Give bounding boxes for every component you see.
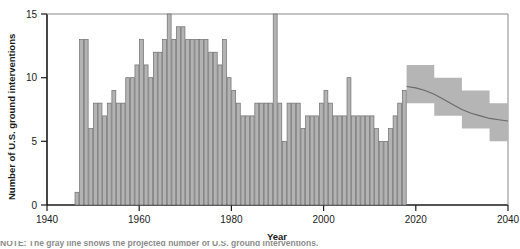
bar-1961 bbox=[144, 65, 148, 205]
bar-1999 bbox=[319, 103, 323, 205]
bar-1953 bbox=[107, 103, 111, 205]
bar-2011 bbox=[375, 129, 379, 205]
bar-1990 bbox=[278, 103, 282, 205]
bar-1947 bbox=[80, 39, 84, 205]
bar-1967 bbox=[172, 39, 176, 205]
bar-1994 bbox=[296, 103, 300, 205]
bar-1971 bbox=[190, 39, 194, 205]
bar-2001 bbox=[329, 103, 333, 205]
y-tick-10: 10 bbox=[26, 72, 38, 83]
y-tick-0: 0 bbox=[31, 200, 37, 211]
x-tick-1960: 1960 bbox=[128, 214, 151, 225]
x-tick-2040: 2040 bbox=[497, 214, 520, 225]
bar-1958 bbox=[130, 78, 134, 205]
y-tick-5: 5 bbox=[31, 136, 37, 147]
bar-2010 bbox=[370, 116, 374, 205]
bar-1989 bbox=[273, 14, 277, 205]
figure-container: Number of U.S. ground interventions 0 5 … bbox=[0, 0, 520, 249]
bar-2017 bbox=[402, 90, 406, 205]
bar-1976 bbox=[213, 52, 217, 205]
bar-1980 bbox=[232, 90, 236, 205]
caption-text: NOTE: The gray line shows the projected … bbox=[0, 241, 520, 247]
bar-1984 bbox=[250, 116, 254, 205]
bar-2013 bbox=[384, 141, 388, 205]
bar-1987 bbox=[264, 103, 268, 205]
bar-1956 bbox=[121, 103, 125, 205]
bar-1981 bbox=[236, 103, 240, 205]
bar-1978 bbox=[223, 39, 227, 205]
x-tick-2020: 2020 bbox=[405, 214, 428, 225]
bar-1977 bbox=[218, 65, 222, 205]
bar-1959 bbox=[135, 65, 139, 205]
bar-2016 bbox=[398, 103, 402, 205]
bar-2002 bbox=[333, 116, 337, 205]
bar-1960 bbox=[140, 39, 144, 205]
bar-1966 bbox=[167, 14, 171, 205]
bar-1992 bbox=[287, 103, 291, 205]
bar-1962 bbox=[149, 78, 153, 205]
bar-1946 bbox=[75, 192, 79, 205]
bar-1951 bbox=[98, 103, 102, 205]
bar-2004 bbox=[342, 116, 346, 205]
bar-1949 bbox=[89, 129, 93, 205]
bar-1982 bbox=[241, 116, 245, 205]
bar-1950 bbox=[93, 103, 97, 205]
x-tick-1940: 1940 bbox=[36, 214, 59, 225]
x-tick-1980: 1980 bbox=[220, 214, 243, 225]
bar-2009 bbox=[365, 116, 369, 205]
bar-1973 bbox=[199, 39, 203, 205]
bar-2007 bbox=[356, 116, 360, 205]
projection-band bbox=[407, 65, 508, 141]
bar-1991 bbox=[282, 141, 286, 205]
bar-2006 bbox=[352, 116, 356, 205]
bar-1979 bbox=[227, 78, 231, 205]
bar-1985 bbox=[255, 103, 259, 205]
x-axis-ticks: 1940 1960 1980 2000 2020 2040 bbox=[36, 205, 520, 225]
bar-2000 bbox=[324, 90, 328, 205]
bar-1986 bbox=[259, 103, 263, 205]
bar-1995 bbox=[301, 129, 305, 205]
bar-series bbox=[75, 14, 406, 205]
ground-interventions-chart: Number of U.S. ground interventions 0 5 … bbox=[0, 0, 520, 249]
bar-1972 bbox=[195, 39, 199, 205]
bar-1993 bbox=[292, 103, 296, 205]
bar-1996 bbox=[306, 116, 310, 205]
bar-1969 bbox=[181, 27, 185, 205]
bar-1964 bbox=[158, 52, 162, 205]
bar-2008 bbox=[361, 116, 365, 205]
bar-1975 bbox=[209, 52, 213, 205]
y-axis-title: Number of U.S. ground interventions bbox=[6, 34, 17, 200]
bar-2014 bbox=[388, 129, 392, 205]
bar-1954 bbox=[112, 90, 116, 205]
bar-1997 bbox=[310, 116, 314, 205]
bar-2015 bbox=[393, 116, 397, 205]
bar-2003 bbox=[338, 116, 342, 205]
bar-1998 bbox=[315, 116, 319, 205]
bar-1965 bbox=[163, 39, 167, 205]
y-tick-15: 15 bbox=[26, 9, 38, 20]
bar-1955 bbox=[117, 103, 121, 205]
figure-caption: NOTE: The gray line shows the projected … bbox=[0, 241, 520, 249]
x-tick-2000: 2000 bbox=[312, 214, 335, 225]
bar-1970 bbox=[186, 39, 190, 205]
bar-2005 bbox=[347, 78, 351, 205]
y-axis-ticks: 0 5 10 15 bbox=[26, 9, 47, 211]
bar-2012 bbox=[379, 141, 383, 205]
bar-1988 bbox=[269, 103, 273, 205]
bar-1948 bbox=[84, 39, 88, 205]
bar-1983 bbox=[246, 116, 250, 205]
bar-1974 bbox=[204, 39, 208, 205]
bar-1963 bbox=[153, 52, 157, 205]
bar-1957 bbox=[126, 78, 130, 205]
bar-1968 bbox=[176, 27, 180, 205]
bar-1952 bbox=[103, 116, 107, 205]
